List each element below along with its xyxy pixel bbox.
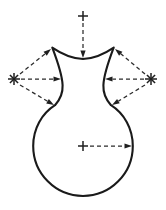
left-lower-radius-arrow-line [20, 85, 48, 101]
top-radius-arrow [80, 23, 85, 58]
left-horizontal-radius-arrow [21, 76, 61, 81]
right-upper-radius-arrow [115, 49, 145, 74]
right-center-mark [145, 73, 157, 85]
left-center-mark [8, 73, 20, 85]
right-upper-radius-arrow-line [121, 54, 145, 74]
right-lower-radius-arrow [112, 85, 145, 105]
left-horizontal-radius-arrow-head [54, 76, 62, 81]
right-horizontal-radius-arrow [105, 76, 144, 81]
top-radius-arrow-head [80, 51, 85, 59]
left-upper-radius-arrow-line [20, 54, 45, 74]
top-center-mark [78, 11, 88, 21]
right-lower-radius-arrow-line [118, 85, 145, 101]
left-upper-radius-arrow [20, 49, 51, 74]
vase-silhouette [33, 48, 133, 196]
outline-group [33, 48, 133, 196]
figure-container [0, 0, 166, 210]
left-lower-radius-arrow-head [46, 99, 54, 105]
right-horizontal-radius-arrow-head [105, 76, 113, 81]
vase-outline-diagram [0, 0, 166, 210]
right-lower-radius-arrow-head [112, 99, 120, 105]
left-lower-radius-arrow [20, 85, 54, 105]
